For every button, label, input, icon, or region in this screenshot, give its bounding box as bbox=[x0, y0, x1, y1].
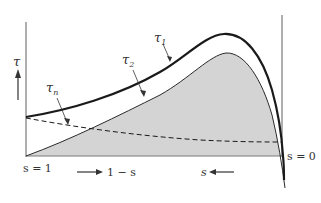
tau-n-arrowhead bbox=[64, 118, 70, 125]
right-end-label: s = 0 bbox=[287, 150, 316, 163]
up-arrow-icon bbox=[15, 69, 21, 78]
direction-right-label: 1 − s bbox=[107, 166, 136, 179]
tau-n-label: τn bbox=[46, 80, 58, 97]
left-end-label: s = 1 bbox=[23, 162, 52, 175]
tau-2-label: τ2 bbox=[122, 52, 134, 69]
direction-left-label: s bbox=[201, 166, 207, 179]
tau-1-arrowhead bbox=[167, 56, 172, 62]
stress-diagram: τ τ1 τ2 τn s = 1 s = 0 1 − s s bbox=[0, 0, 321, 203]
tau-1-label: τ1 bbox=[154, 30, 166, 47]
right-arrow-icon bbox=[96, 169, 103, 175]
y-axis-label: τ bbox=[13, 54, 21, 69]
tau-2-arrowhead bbox=[140, 90, 146, 97]
